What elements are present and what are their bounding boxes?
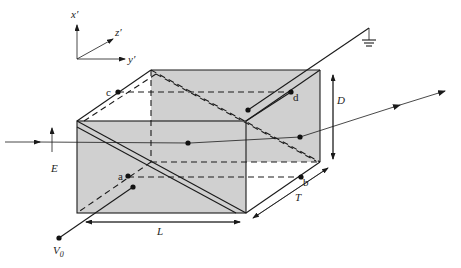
- beam-point-entry: [185, 140, 190, 145]
- coordinate-axes: x′ z′ y′: [70, 8, 136, 65]
- crystal-diagram: x′ z′ y′: [0, 0, 461, 268]
- point-c: [115, 89, 120, 94]
- e-field-label: E: [50, 162, 58, 174]
- y-axis-label: y′: [127, 53, 136, 65]
- voltage-label: V0: [53, 244, 64, 259]
- label-b: b: [303, 176, 309, 188]
- e-field: E: [50, 128, 58, 174]
- x-axis-label: x′: [70, 8, 79, 20]
- thickness-label: T: [295, 191, 302, 203]
- label-a: a: [118, 170, 123, 182]
- depth-label: D: [336, 94, 345, 106]
- label-d: d: [293, 91, 299, 103]
- length-label: L: [156, 225, 163, 237]
- z-axis-arrow: [77, 39, 113, 59]
- z-axis-label: z′: [114, 26, 122, 38]
- point-a: [125, 173, 130, 178]
- beam-point-exit: [297, 134, 302, 139]
- label-c: c: [106, 86, 111, 98]
